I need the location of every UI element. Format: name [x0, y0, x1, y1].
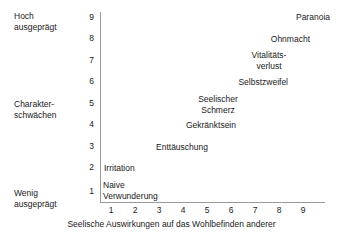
y-axis-tick-7: 7	[80, 56, 94, 65]
data-label-enttaeuschung: Enttäuschung	[122, 142, 208, 153]
data-label-gekraenktsein: Gekränktsein	[150, 120, 236, 131]
y-axis-tick-8: 8	[80, 34, 94, 43]
x-axis-line	[100, 202, 325, 203]
zone-label-high: Hoch ausgeprägt	[14, 11, 84, 32]
zone-label-high-line1: Hoch	[14, 11, 84, 22]
x-axis-tick-6: 6	[224, 206, 238, 215]
y-axis-tick-6: 6	[80, 77, 94, 86]
zone-label-high-line2: ausgeprägt	[14, 22, 84, 33]
chart-container: 9 8 7 6 5 4 3 2 1 1 2 3 4 5 6 7 8 9 Hoch…	[0, 0, 343, 235]
x-axis-tick-1: 1	[104, 206, 118, 215]
data-label-irritation: Irritation	[104, 163, 174, 174]
data-label-vitalitaetsverlust: Vitalitäts- verlust	[233, 50, 305, 71]
zone-label-character-line1: Charakter-	[14, 99, 84, 110]
zone-label-low-line1: Wenig	[14, 188, 84, 199]
data-label-seelischer-schmerz: Seelischer Schmerz	[183, 94, 253, 115]
x-axis-tick-8: 8	[272, 206, 286, 215]
zone-label-character: Charakter- schwächen	[14, 99, 84, 120]
y-axis-tick-4: 4	[80, 120, 94, 129]
x-axis-tick-4: 4	[176, 206, 190, 215]
x-axis-tick-9: 9	[296, 206, 310, 215]
data-label-selbstzweifel: Selbstzweifel	[198, 77, 288, 88]
y-axis-line	[100, 12, 101, 202]
x-axis-tick-2: 2	[128, 206, 142, 215]
x-axis-title: Seelische Auswirkungen auf das Wohlbefin…	[0, 219, 343, 229]
x-axis-tick-3: 3	[152, 206, 166, 215]
zone-label-character-line2: schwächen	[14, 110, 84, 121]
data-label-ohnmacht: Ohnmacht	[232, 34, 310, 45]
x-axis-tick-5: 5	[200, 206, 214, 215]
data-label-paranoia: Paranoia	[260, 12, 330, 23]
zone-label-low: Wenig ausgeprägt	[14, 188, 84, 209]
zone-label-low-line2: ausgeprägt	[14, 199, 84, 210]
y-axis-tick-2: 2	[80, 163, 94, 172]
y-axis-tick-3: 3	[80, 142, 94, 151]
data-label-naive-verwunderung: Naive Verwunderung	[103, 180, 183, 201]
x-axis-tick-7: 7	[248, 206, 262, 215]
